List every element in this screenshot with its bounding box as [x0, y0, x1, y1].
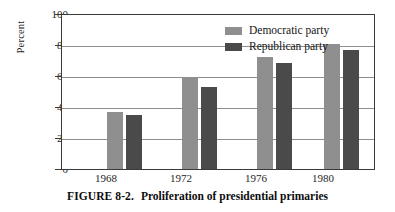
- figure-caption: FIGURE 8-2.Proliferation of presidential…: [0, 190, 395, 202]
- bar-group-1968: [106, 15, 144, 169]
- x-tick-label-1972: 1972: [151, 173, 211, 184]
- bar-republican-1980: [343, 50, 359, 169]
- bar-democratic-1980: [324, 44, 340, 169]
- caption-title: Proliferation of presidential primaries: [141, 190, 328, 202]
- bar-republican-1968: [126, 115, 142, 169]
- x-tick-label-1968: 1968: [76, 173, 136, 184]
- bar-republican-1976: [276, 63, 292, 169]
- bar-democratic-1968: [107, 112, 123, 169]
- x-tick-label-1976: 1976: [226, 173, 286, 184]
- legend-label-republican: Republican party: [249, 40, 328, 53]
- legend-item-democratic: Democratic party: [225, 24, 375, 37]
- legend-swatch-republican-icon: [225, 43, 242, 51]
- legend: Democratic party Republican party: [225, 24, 375, 56]
- bar-group-1972: [181, 15, 219, 169]
- legend-label-democratic: Democratic party: [249, 24, 329, 37]
- plot-area: Democratic party Republican party: [61, 14, 375, 170]
- bar-democratic-1976: [257, 57, 273, 169]
- figure-container: Percent 100 80 60 40 20 0: [0, 0, 395, 212]
- bar-republican-1972: [201, 87, 217, 169]
- y-axis-title: Percent: [14, 2, 28, 72]
- x-tick-label-1980: 1980: [293, 173, 353, 184]
- legend-item-republican: Republican party: [225, 40, 375, 53]
- caption-figure-number: FIGURE 8-2.: [67, 190, 134, 202]
- bar-democratic-1972: [182, 77, 198, 169]
- legend-swatch-democratic-icon: [225, 27, 242, 35]
